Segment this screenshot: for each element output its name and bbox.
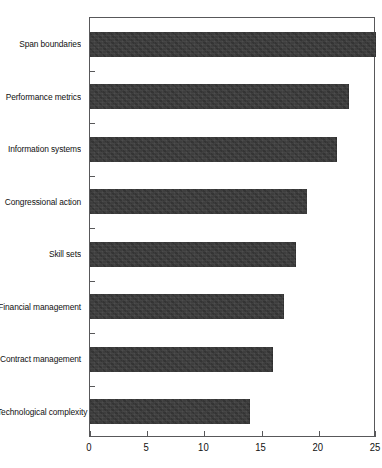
y-axis-tick	[90, 123, 95, 124]
bar	[90, 294, 284, 319]
y-axis-tick	[90, 176, 95, 177]
x-axis-tick	[319, 431, 320, 437]
category-label: Span boundaries	[0, 37, 81, 49]
x-axis-tick-label: 0	[86, 441, 91, 455]
y-axis-tick	[90, 281, 95, 282]
x-axis-tick-label: 25	[370, 441, 381, 455]
y-axis-tick	[90, 386, 95, 387]
x-axis-tick	[375, 431, 376, 437]
bar	[90, 399, 250, 424]
y-axis-tick	[90, 228, 95, 229]
bar	[90, 242, 296, 267]
category-label: Performance metrics	[0, 90, 81, 102]
category-label: Congressional action	[0, 195, 81, 207]
x-axis-tick-label: 15	[255, 441, 266, 455]
x-axis-tick-labels: 0510152025	[89, 441, 375, 457]
x-axis-tick-label: 20	[313, 441, 324, 455]
x-axis-tick	[90, 431, 91, 437]
bar	[90, 189, 307, 214]
x-axis-tick	[204, 431, 205, 437]
x-axis-tick-label: 10	[198, 441, 209, 455]
bar	[90, 347, 273, 372]
x-axis-tick	[147, 431, 148, 437]
category-axis-labels: Span boundariesPerformance metricsInform…	[0, 17, 85, 437]
x-axis-tick	[262, 431, 263, 437]
bar	[90, 32, 376, 57]
y-axis-tick	[90, 71, 95, 72]
category-label: Financial management	[0, 300, 81, 312]
bar	[90, 137, 337, 162]
category-label: Technological complexity	[0, 405, 81, 417]
bar	[90, 84, 349, 109]
bar-chart: Span boundariesPerformance metricsInform…	[0, 0, 382, 468]
plot-area	[89, 17, 375, 437]
bars-layer	[90, 18, 374, 436]
x-axis-tick-label: 5	[144, 441, 149, 455]
category-label: Information systems	[0, 142, 81, 154]
category-label: Skill sets	[0, 247, 81, 259]
y-axis-tick	[90, 333, 95, 334]
category-label: Contract management	[0, 352, 81, 364]
